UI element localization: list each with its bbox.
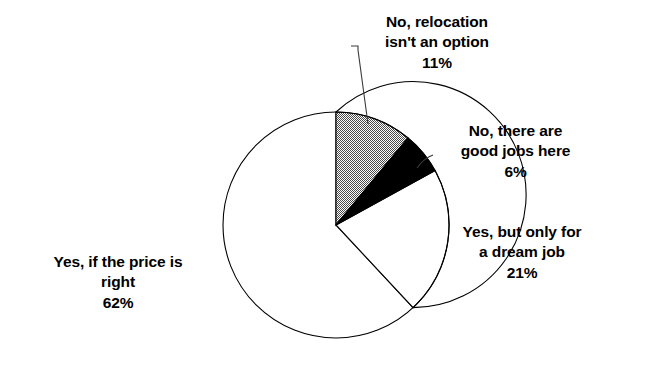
slice-label-line-1: No, there are [428, 121, 603, 141]
pie-chart-figure: No, relocation isn't an option 11% No, t… [0, 0, 655, 368]
slice-label-line-2: good jobs here [428, 141, 603, 161]
slice-label-no-good-jobs: No, there are good jobs here 6% [428, 121, 603, 182]
slice-label-line-2: a dream job [432, 242, 612, 262]
slice-label-no-relocation: No, relocation isn't an option 11% [352, 12, 522, 73]
slice-label-line-1: Yes, if the price is [14, 252, 222, 272]
slice-label-value: 11% [352, 53, 522, 73]
slice-label-value: 6% [428, 162, 603, 182]
slice-label-line-1: No, relocation [352, 12, 522, 32]
slice-label-yes-if-price-right: Yes, if the price is right 62% [14, 252, 222, 313]
slice-label-line-1: Yes, but only for [432, 222, 612, 242]
slice-label-value: 21% [432, 263, 612, 283]
slice-label-line-2: right [14, 272, 222, 292]
slice-label-value: 62% [14, 293, 222, 313]
slice-label-yes-dream-job: Yes, but only for a dream job 21% [432, 222, 612, 283]
slice-label-line-2: isn't an option [352, 32, 522, 52]
